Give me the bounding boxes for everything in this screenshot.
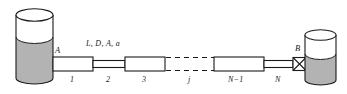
pipe-segment-2 [93,61,125,68]
pipe-segment-3 [125,57,165,71]
pipe-segment-1 [53,57,93,71]
label-point-b: B [295,44,300,53]
label-pipe-parameters: L, D, A, a [86,40,120,48]
valve-symbol-b [293,58,306,71]
label-segment-n-minus-1: N−1 [228,76,243,84]
pipe-network-figure: A L, D, A, a 1 2 3 j N−1 N B [0,0,347,94]
right-tank-top-rim [305,30,336,41]
right-reservoir-tank [305,30,336,85]
pipe-series-ellipsis [166,58,214,71]
label-segment-1: 1 [70,76,74,84]
left-tank-top-rim [16,9,53,21]
label-point-a: A [55,46,60,55]
pipe-segment-n [264,61,293,68]
label-segment-j: j [188,76,190,84]
label-segment-n: N [275,76,281,84]
label-segment-3: 3 [142,76,146,84]
left-tank-liquid [16,37,53,84]
pipe-segment-n-minus-1 [214,57,264,71]
label-segment-2: 2 [106,76,110,84]
left-reservoir-tank [16,9,53,84]
